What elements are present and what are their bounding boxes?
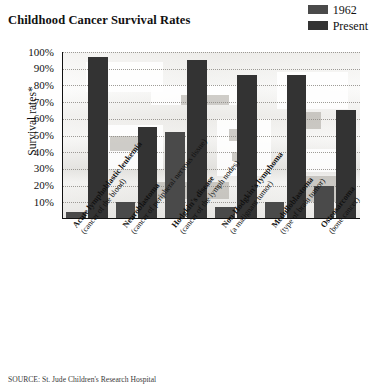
page-title: Childhood Cancer Survival Rates [8,13,190,28]
y-tick-30: 30% [34,163,54,174]
y-tick-100: 100% [28,47,54,58]
y-tick-90: 90% [34,63,54,74]
y-tick-10: 10% [34,197,54,208]
y-tick-50: 50% [34,130,54,141]
y-axis-line [62,52,63,219]
legend-label-present: Present [333,20,368,32]
x-axis-labels: Acute lymphoblastic leukemia(cancer of t… [0,222,376,372]
y-tick-40: 40% [34,147,54,158]
y-tick-80: 80% [34,80,54,91]
legend-swatch-present [308,21,328,30]
legend-item-1962: 1962 [308,2,368,17]
legend-item-present: Present [308,18,368,33]
y-axis-ticks: 100%90%80%70%60%50%40%30%20%10% [0,52,58,219]
legend: 1962 Present [308,2,368,34]
x-axis-line [62,218,360,219]
y-tick-60: 60% [34,113,54,124]
chart-page: Childhood Cancer Survival Rates 1962 Pre… [0,0,376,385]
legend-swatch-1962 [308,5,328,14]
y-tick-70: 70% [34,97,54,108]
source-note: SOURCE: St. Jude Children's Research Hos… [8,375,156,384]
y-tick-20: 20% [34,180,54,191]
legend-label-1962: 1962 [333,4,357,16]
